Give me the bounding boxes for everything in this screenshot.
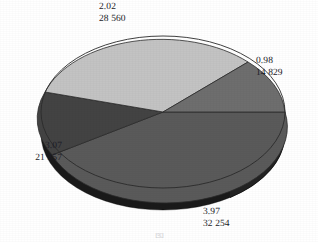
pie-label-0-98: 0.98 14 829 — [256, 56, 283, 79]
pie-label-0-98-percent: 0.98 — [256, 56, 283, 68]
pie-label-2-02-value: 28 560 — [99, 14, 126, 26]
pie-top-face — [37, 36, 287, 203]
pie-label-3-07-percent: 3.07 — [6, 141, 62, 153]
figure-caption-text: 图 — [155, 233, 164, 239]
pie-label-2-02-percent: 2.02 — [99, 2, 126, 14]
pie-label-3-97-percent: 3.97 — [203, 207, 230, 219]
pie-label-3-07-value: 21 357 — [6, 153, 62, 165]
pie-label-3-97-value: 32 254 — [203, 219, 230, 231]
pie-chart-graphic — [0, 0, 318, 242]
pie-label-3-97: 3.97 32 254 — [203, 207, 230, 230]
pie-chart-figure: 2.02 28 560 0.98 14 829 3.07 21 357 3.97… — [0, 0, 318, 242]
figure-caption-cropped: 图 — [0, 233, 318, 242]
pie-label-2-02: 2.02 28 560 — [99, 2, 126, 25]
pie-label-0-98-value: 14 829 — [256, 68, 283, 80]
pie-label-3-07: 3.07 21 357 — [6, 141, 62, 164]
